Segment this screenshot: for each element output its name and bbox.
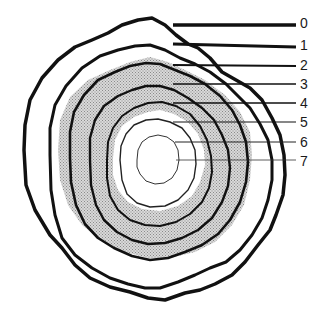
label-3: 3 (300, 77, 308, 91)
label-2: 2 (300, 58, 308, 72)
label-4: 4 (300, 96, 308, 110)
label-5: 5 (300, 115, 308, 129)
leader-line-2 (173, 65, 296, 66)
label-7: 7 (300, 154, 308, 168)
label-0: 0 (300, 16, 308, 30)
ring-diagram (0, 0, 328, 320)
label-6: 6 (300, 135, 308, 149)
label-1: 1 (300, 38, 308, 52)
